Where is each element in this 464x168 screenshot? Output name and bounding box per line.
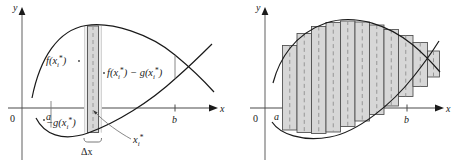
riemann-rect (283, 46, 298, 131)
x-axis-left (8, 104, 218, 111)
annotation-neg-g-of-xi: −g(xi*) (46, 116, 76, 131)
tick-label-b: b (172, 114, 177, 125)
tick-label-a: a (274, 111, 279, 122)
right-panel-canvas: y x 0 a b (232, 0, 464, 168)
tick-label-b: b (404, 114, 409, 125)
panel-representative-rectangle: y x 0 a b f(xi*) f(xi*) − g(xi*) −g(xi*) (0, 0, 232, 168)
y-axis-label: y (255, 2, 261, 13)
leader-dot-f (78, 60, 80, 62)
annotation-delta-x: Δx (81, 146, 92, 157)
y-axis-right (262, 7, 269, 160)
left-panel-canvas: y x 0 a b f(xi*) f(xi*) − g(xi*) −g(xi*) (0, 0, 232, 168)
annotation-xi-star: xi* (132, 133, 144, 148)
svg-text:xi*: xi* (132, 133, 144, 148)
panel-riemann-sum: y x 0 a b (232, 0, 464, 168)
riemann-rectangle-group (283, 21, 440, 134)
y-axis-label: y (12, 2, 18, 13)
x-axis-label: x (219, 103, 225, 114)
leader-dot-diff (103, 72, 105, 74)
svg-text:−g(xi*): −g(xi*) (46, 116, 76, 131)
delta-x-brace (84, 138, 102, 142)
leader-dot-negg (43, 119, 45, 121)
y-axis-left (19, 7, 26, 160)
svg-text:f(xi*): f(xi*) (46, 54, 67, 69)
origin-label: 0 (253, 113, 258, 124)
figure-area-between-curves: y x 0 a b f(xi*) f(xi*) − g(xi*) −g(xi*) (0, 0, 464, 168)
origin-label: 0 (10, 113, 15, 124)
annotation-f-minus-g: f(xi*) − g(xi*) (107, 66, 163, 81)
svg-text:f(xi*) − g(xi*): f(xi*) − g(xi*) (107, 66, 163, 81)
annotation-f-of-xi: f(xi*) (46, 54, 67, 69)
x-axis-label: x (445, 103, 451, 114)
